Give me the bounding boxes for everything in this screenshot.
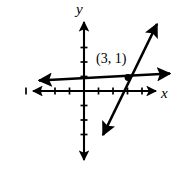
y-axis-label: y (76, 2, 83, 17)
x-axis-group (26, 88, 156, 95)
point-coordinate-label: (3, 1) (96, 52, 126, 66)
coordinate-graph-figure: y x (3, 1) (0, 0, 183, 174)
coordinate-plane-svg (0, 0, 183, 174)
x-axis-label: x (161, 86, 168, 101)
intersection-point-marker (125, 74, 132, 81)
shallow-line (39, 74, 170, 81)
